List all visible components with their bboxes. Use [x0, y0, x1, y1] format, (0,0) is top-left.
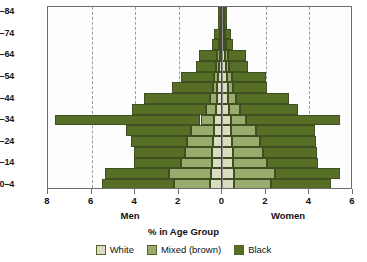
- y-tick-label-30-34: 30–34: [0, 114, 14, 124]
- bar-segment-men-black: [126, 125, 190, 136]
- bar-segment-men-black: [199, 50, 218, 61]
- bar-segment-women-mixed: [234, 179, 271, 189]
- bar-segment-men-black: [144, 93, 210, 104]
- x-tick-label-4: 4: [298, 195, 318, 206]
- bar-segment-women-white: [222, 147, 232, 158]
- bar-segment-men-black: [102, 179, 174, 189]
- bar-segment-women-mixed: [231, 115, 246, 126]
- bar-segment-men-mixed: [181, 158, 212, 169]
- bar-segment-women-mixed: [233, 147, 264, 158]
- age-band-55-59: [48, 61, 351, 72]
- bar-segment-women-black: [246, 115, 340, 126]
- bar-segment-women-mixed: [229, 104, 240, 115]
- x-tick-label-2: 2: [168, 195, 188, 206]
- legend-item-black: Black: [234, 244, 271, 255]
- age-band-60-64: [48, 50, 351, 61]
- y-tick-label-80-84: 80–84: [0, 6, 14, 16]
- age-band-75-79: [48, 18, 351, 29]
- bar-segment-women-black: [229, 61, 249, 72]
- men-side-label: Men: [95, 210, 165, 221]
- x-tick-8: [47, 189, 48, 194]
- bar-segment-men-black: [212, 39, 220, 50]
- legend-item-mixed-brown: Mixed (brown): [147, 244, 221, 255]
- y-tick-label-60-64: 60–64: [0, 49, 14, 59]
- bar-segment-men-black: [134, 158, 181, 169]
- y-tick-label-0-4: 0–4: [0, 179, 14, 189]
- bar-segment-men-white: [214, 125, 223, 136]
- x-tick-6: [352, 189, 353, 194]
- y-tick-label-20-24: 20–24: [0, 136, 14, 146]
- x-tick-label-6: 6: [342, 195, 362, 206]
- bar-segment-men-white: [210, 179, 222, 189]
- age-band-10-14: [48, 158, 351, 169]
- bar-segment-women-black: [260, 136, 316, 147]
- bar-segment-women-black: [240, 104, 298, 115]
- age-band-5-9: [48, 168, 351, 179]
- bar-segment-men-mixed: [185, 147, 212, 158]
- legend-swatch-icon: [96, 245, 106, 255]
- x-tick-label-8: 8: [37, 195, 57, 206]
- legend-item-white: White: [96, 244, 134, 255]
- population-pyramid-figure: Age Group 0–410–1420–2430–3440–4450–5460…: [0, 0, 367, 262]
- x-tick-0: [221, 189, 222, 194]
- bar-segment-men-mixed: [216, 61, 219, 72]
- bar-segment-men-black: [134, 147, 185, 158]
- bar-segment-men-mixed: [214, 72, 218, 83]
- plot-area: [47, 6, 352, 189]
- x-tick-label-2: 2: [255, 195, 275, 206]
- bar-segment-women-white: [222, 104, 229, 115]
- x-tick-2: [178, 189, 179, 194]
- bar-segment-women-black: [275, 168, 340, 179]
- bar-segment-men-black: [218, 7, 221, 18]
- age-band-35-39: [48, 104, 351, 115]
- bar-segment-women-black: [232, 72, 266, 83]
- y-tick-label-40-44: 40–44: [0, 93, 14, 103]
- bar-segment-men-mixed: [206, 104, 216, 115]
- bar-segment-men-mixed: [174, 179, 210, 189]
- age-band-80-84: [48, 7, 351, 18]
- bar-segment-women-mixed: [231, 125, 256, 136]
- age-band-20-24: [48, 136, 351, 147]
- zero-axis-line: [222, 7, 223, 188]
- bar-segment-men-black: [181, 72, 214, 83]
- bar-segment-women-white: [222, 158, 233, 169]
- bar-segment-men-black: [214, 29, 221, 40]
- bar-segment-women-white: [222, 125, 231, 136]
- bar-segment-women-black: [267, 158, 318, 169]
- bar-segment-men-white: [214, 115, 222, 126]
- bar-segment-women-mixed: [234, 168, 275, 179]
- legend-label: Mixed (brown): [161, 244, 221, 255]
- age-band-0-4: [48, 179, 351, 189]
- bar-segment-men-black: [172, 82, 212, 93]
- bar-segment-women-black: [233, 82, 267, 93]
- bar-segment-women-white: [222, 168, 233, 179]
- bar-segment-men-white: [213, 136, 222, 147]
- bar-segment-men-black: [105, 168, 169, 179]
- bar-segment-women-mixed: [233, 158, 267, 169]
- age-band-70-74: [48, 29, 351, 40]
- x-tick-label-0: 0: [211, 195, 231, 206]
- bar-segment-women-black: [224, 7, 227, 18]
- bar-segment-men-white: [211, 168, 222, 179]
- bar-segment-women-mixed: [232, 136, 260, 147]
- bar-segment-women-black: [271, 179, 331, 189]
- bar-segment-men-black: [196, 61, 217, 72]
- age-band-65-69: [48, 39, 351, 50]
- bar-segment-men-mixed: [213, 82, 218, 93]
- bar-segment-men-mixed: [191, 125, 214, 136]
- bar-segment-women-black: [236, 93, 289, 104]
- bar-segment-women-mixed: [228, 93, 236, 104]
- age-band-25-29: [48, 125, 351, 136]
- x-axis-title: % in Age Group: [0, 226, 367, 237]
- women-side-label: Women: [253, 210, 323, 221]
- bar-segment-men-white: [212, 147, 222, 158]
- age-band-50-54: [48, 72, 351, 83]
- x-tick-4: [134, 189, 135, 194]
- legend-label: Black: [248, 244, 271, 255]
- bar-segment-women-black: [228, 50, 245, 61]
- x-tick-2: [265, 189, 266, 194]
- bar-segment-men-white: [212, 158, 222, 169]
- bar-segment-men-mixed: [210, 93, 217, 104]
- bar-segment-women-white: [222, 179, 234, 189]
- y-tick-label-10-14: 10–14: [0, 157, 14, 167]
